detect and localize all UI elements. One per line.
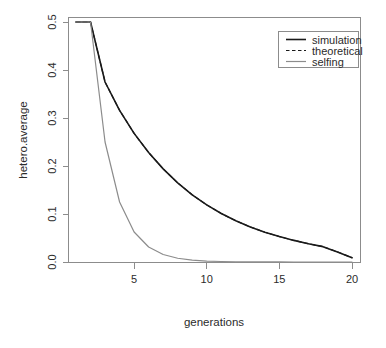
chart-container: 0.00.10.20.30.40.5 5101520 generations h…	[0, 0, 386, 348]
y-tick-label: 0.1	[46, 206, 58, 221]
y-tick-label: 0.3	[46, 110, 58, 125]
chart-canvas: 0.00.10.20.30.40.5 5101520 generations h…	[0, 0, 386, 348]
x-tick-label: 15	[273, 273, 285, 285]
legend-label-selfing: selfing	[312, 56, 344, 68]
y-tick-label: 0.5	[46, 14, 58, 29]
x-tick-label: 10	[201, 273, 213, 285]
y-tick-label: 0.2	[46, 158, 58, 173]
y-tick-label: 0.4	[46, 62, 58, 77]
y-axis-title: hetero.average	[17, 101, 29, 178]
x-tick-label: 5	[131, 273, 137, 285]
x-tick-label: 20	[346, 273, 358, 285]
x-axis-title: generations	[184, 316, 244, 328]
y-tick-label: 0.0	[46, 254, 58, 269]
